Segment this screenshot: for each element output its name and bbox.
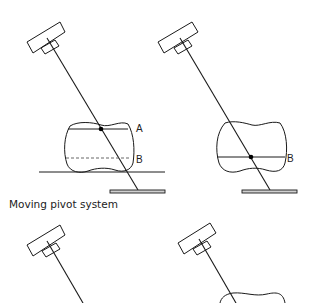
plate [242, 190, 297, 193]
rod [47, 241, 83, 303]
plate [110, 190, 165, 193]
tooth-outline-partial [220, 293, 285, 303]
rod [47, 38, 138, 190]
diagram-canvas: A B B [0, 0, 323, 303]
rod [180, 38, 270, 190]
label-b: B [287, 153, 294, 164]
panel-top-left: A B [27, 22, 165, 193]
tooth-outline [217, 122, 287, 172]
panel-top-right: B [158, 22, 297, 193]
panel-bottom-left [27, 225, 83, 303]
instrument-head [27, 225, 65, 257]
pivot-dot [249, 155, 254, 160]
panel-bottom-right [178, 223, 285, 303]
pivot-dot [99, 127, 104, 132]
instrument-head [158, 22, 198, 54]
instrument-head [178, 223, 216, 255]
instrument-head [27, 22, 65, 54]
label-b: B [136, 154, 143, 165]
label-a: A [136, 123, 143, 134]
caption-moving-pivot-system: Moving pivot system [9, 198, 118, 210]
